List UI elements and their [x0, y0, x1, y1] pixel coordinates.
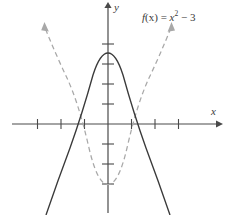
dashed-curve-left-arrowhead — [41, 22, 49, 32]
y-axis-arrowhead — [104, 2, 111, 8]
parabola-figure: x y f(x) = x2 − 3 — [0, 0, 231, 215]
plot-canvas — [0, 0, 231, 215]
function-equals: = — [158, 11, 170, 23]
dashed-curve-right-arrowhead — [168, 22, 175, 32]
function-equation-label: f(x) = x2 − 3 — [142, 12, 195, 23]
x-axis-arrowhead — [216, 120, 223, 127]
x-axis-label: x — [211, 106, 216, 117]
function-argument: (x) — [145, 11, 158, 23]
y-axis-label: y — [114, 2, 119, 13]
function-constant: − 3 — [178, 11, 195, 23]
